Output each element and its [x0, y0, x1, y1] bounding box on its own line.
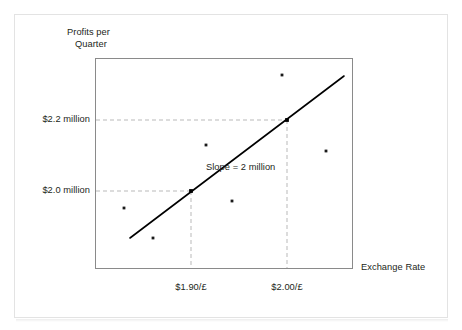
- y-axis-title-line1: Profits per: [67, 27, 110, 37]
- y-axis-title: Profits per Quarter: [67, 27, 110, 50]
- data-point: [231, 200, 234, 203]
- data-point: [325, 150, 328, 153]
- data-point: [205, 144, 208, 147]
- data-point: [123, 207, 126, 210]
- figure-root: Profits per Quarter Exchange Rate $2.2 m…: [0, 0, 462, 330]
- data-point: [152, 237, 155, 240]
- reference-marker-2-00: [285, 118, 289, 122]
- x-tick-label-1-90: $1.90/£: [156, 282, 226, 294]
- reference-marker-1-90: [189, 189, 193, 193]
- y-tick-label-2-0: $2.0 million: [6, 185, 90, 197]
- x-tick-label-2-00: $2.00/£: [252, 282, 322, 294]
- slope-annotation: Slope = 2 million: [206, 162, 275, 174]
- x-axis-title: Exchange Rate: [361, 262, 425, 274]
- data-point: [281, 74, 284, 77]
- y-axis-title-line2: Quarter: [67, 39, 110, 51]
- y-tick-label-2-2: $2.2 million: [6, 114, 90, 126]
